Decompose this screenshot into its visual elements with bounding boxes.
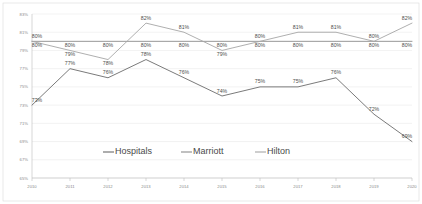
data-label-hospitals-2020: 69% xyxy=(402,133,413,139)
chart-legend: HospitalsMarriottHilton xyxy=(103,146,290,156)
line-chart: 65%67%69%71%73%75%77%79%81%83% 201020112… xyxy=(0,0,422,204)
y-axis-tick-label: 71% xyxy=(20,121,29,126)
data-label-marriott-2012: 80% xyxy=(103,42,114,48)
data-label-hilton-2015: 79% xyxy=(217,51,228,57)
data-label-hilton-2018: 81% xyxy=(331,24,342,30)
y-axis-labels: 65%67%69%71%73%75%77%79%81%83% xyxy=(20,12,29,181)
data-label-hilton-2017: 81% xyxy=(293,24,304,30)
y-axis-tick-label: 69% xyxy=(20,139,29,144)
data-label-hilton-2013: 82% xyxy=(141,15,152,21)
y-axis-tick-label: 77% xyxy=(20,66,29,71)
x-axis-labels: 2010201120122013201420152016201720182019… xyxy=(27,178,417,189)
x-axis-tick-label: 2010 xyxy=(27,184,37,189)
data-label-hilton-2012: 78% xyxy=(103,60,114,66)
x-axis-tick-label: 2013 xyxy=(141,184,151,189)
data-label-hospitals-2011: 77% xyxy=(65,60,76,66)
data-point-labels: 73%77%76%78%76%74%75%75%76%72%69%80%80%8… xyxy=(32,15,413,139)
data-label-hospitals-2016: 75% xyxy=(255,78,266,84)
data-label-hospitals-2014: 76% xyxy=(179,69,190,75)
data-label-hospitals-2010: 73% xyxy=(32,97,43,103)
y-axis-tick-label: 75% xyxy=(20,84,29,89)
data-label-hospitals-2013: 78% xyxy=(141,51,152,57)
y-axis-tick-label: 73% xyxy=(20,103,29,108)
y-axis-tick-label: 81% xyxy=(20,30,29,35)
x-axis-tick-label: 2019 xyxy=(369,184,379,189)
plot-frame xyxy=(3,3,419,201)
y-axis-tick-label: 67% xyxy=(20,157,29,162)
data-label-marriott-2010: 80% xyxy=(32,42,43,48)
data-label-marriott-2020: 80% xyxy=(402,42,413,48)
x-axis-tick-label: 2011 xyxy=(65,184,75,189)
y-axis-tick-label: 65% xyxy=(20,176,29,181)
data-label-hilton-2011: 79% xyxy=(65,51,76,57)
data-label-hilton-2010: 80% xyxy=(32,33,43,39)
data-label-marriott-2014: 80% xyxy=(179,42,190,48)
data-label-hilton-2014: 81% xyxy=(179,24,190,30)
data-label-hospitals-2012: 76% xyxy=(103,69,114,75)
series-line-hospitals xyxy=(32,60,412,142)
x-axis-tick-label: 2014 xyxy=(179,184,189,189)
data-label-marriott-2018: 80% xyxy=(331,42,342,48)
legend-label-hospitals: Hospitals xyxy=(115,146,153,156)
x-axis-tick-label: 2017 xyxy=(293,184,303,189)
data-label-hospitals-2018: 76% xyxy=(331,69,342,75)
data-label-hilton-2020: 82% xyxy=(402,15,413,21)
data-label-marriott-2013: 80% xyxy=(141,42,152,48)
x-axis-tick-label: 2016 xyxy=(255,184,265,189)
legend-label-marriott: Marriott xyxy=(193,146,224,156)
data-label-hilton-2019: 80% xyxy=(369,33,380,39)
legend-label-hilton: Hilton xyxy=(267,146,290,156)
data-label-marriott-2011: 80% xyxy=(65,42,76,48)
data-label-hilton-2016: 80% xyxy=(255,33,266,39)
data-label-marriott-2015: 80% xyxy=(217,42,228,48)
x-axis-tick-label: 2018 xyxy=(331,184,341,189)
data-label-hospitals-2019: 72% xyxy=(369,106,380,112)
data-label-marriott-2017: 80% xyxy=(293,42,304,48)
y-axis-tick-label: 83% xyxy=(20,12,29,17)
x-axis-tick-label: 2020 xyxy=(407,184,417,189)
data-label-marriott-2019: 80% xyxy=(369,42,380,48)
y-axis-tick-label: 79% xyxy=(20,48,29,53)
chart-canvas: 65%67%69%71%73%75%77%79%81%83% 201020112… xyxy=(0,0,422,204)
data-label-hospitals-2015: 74% xyxy=(217,88,228,94)
x-axis-tick-label: 2015 xyxy=(217,184,227,189)
chart-outer-border xyxy=(3,3,419,201)
x-axis-tick-label: 2012 xyxy=(103,184,113,189)
data-label-marriott-2016: 80% xyxy=(255,42,266,48)
data-label-hospitals-2017: 75% xyxy=(293,78,304,84)
